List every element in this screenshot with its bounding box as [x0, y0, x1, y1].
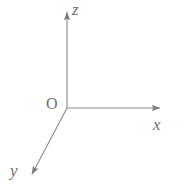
y-axis-line	[32, 108, 67, 174]
coordinate-axes-figure: O z x y	[0, 0, 184, 190]
origin-label: O	[46, 96, 58, 112]
x-axis-label: x	[153, 116, 161, 133]
z-axis-label: z	[72, 1, 79, 18]
axes-drawing	[0, 0, 184, 190]
y-axis-label: y	[10, 162, 18, 179]
